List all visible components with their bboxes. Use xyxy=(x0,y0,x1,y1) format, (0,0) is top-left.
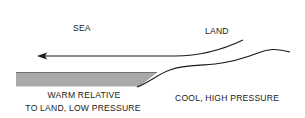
land-label: LAND xyxy=(205,27,229,36)
sea-condition-line1: WARM RELATIVE xyxy=(42,91,126,100)
wind-arrow-line xyxy=(42,40,243,56)
sea-condition-line2: TO LAND, LOW PRESSURE xyxy=(19,104,147,113)
sea-surface xyxy=(16,73,157,87)
land-surface-line xyxy=(137,49,290,87)
land-condition-label: COOL, HIGH PRESSURE xyxy=(175,94,279,103)
sea-label: SEA xyxy=(73,24,91,33)
